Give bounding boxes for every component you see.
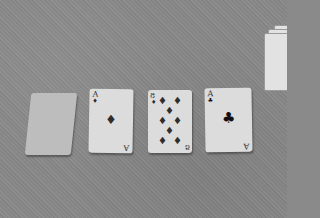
face-down-card (25, 93, 78, 155)
diamond-icon: ♦ (158, 136, 167, 146)
card-rank: 8 (185, 143, 190, 151)
diamond-icon: ♦ (105, 113, 117, 126)
card-rank: A (244, 142, 250, 150)
club-icon: ♣ (222, 111, 236, 126)
diamond-icon: ♦ (173, 136, 182, 146)
diamond-icon: ♦ (173, 96, 182, 106)
ace-of-diamonds-card: A ♦ ♦ A (88, 89, 133, 154)
eight-of-diamonds-card: 8 ♦ ♦ ♦ ♦ ♦ ♦ ♦ ♦ ♦ 8 (148, 90, 192, 153)
ace-of-clubs-card: A ♣ ♣ A (204, 88, 252, 153)
card-rank: A (124, 143, 130, 151)
card-stack (262, 25, 287, 91)
diamond-icon: ♦ (173, 116, 182, 126)
club-icon: ♣ (208, 97, 213, 103)
diamond-icon: ♦ (151, 99, 156, 105)
diamond-icon: ♦ (92, 98, 97, 104)
